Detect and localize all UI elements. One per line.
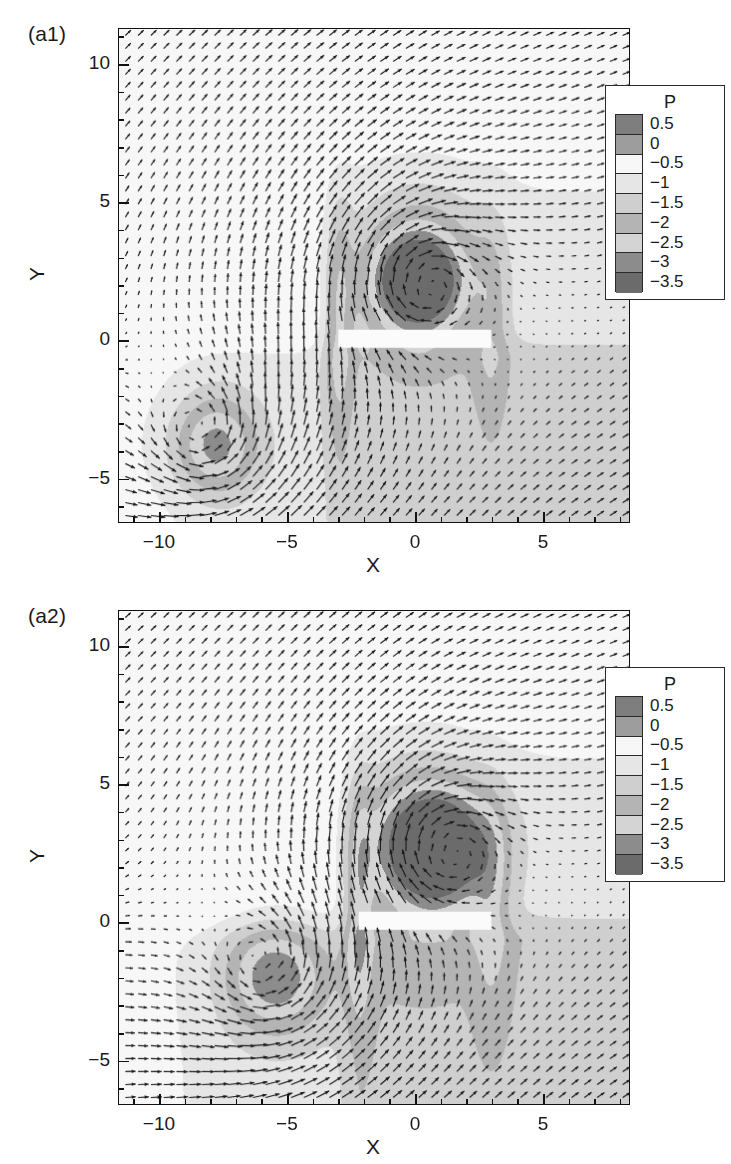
colorbar-band bbox=[616, 273, 642, 293]
y-tick bbox=[118, 1005, 124, 1007]
y-tick-label: 10 bbox=[52, 52, 110, 74]
x-tick bbox=[364, 1099, 366, 1105]
x-tick bbox=[185, 517, 187, 523]
colorbar-band bbox=[616, 214, 642, 234]
x-tick bbox=[133, 517, 135, 523]
y-tick bbox=[118, 1061, 129, 1063]
colorbar-band bbox=[616, 737, 642, 757]
colorbar-tick-label: −3.5 bbox=[650, 854, 684, 874]
x-tick-label: −10 bbox=[129, 531, 189, 553]
y-tick bbox=[118, 92, 124, 94]
vector-pressure-field-a1 bbox=[119, 29, 629, 522]
y-tick bbox=[118, 784, 129, 786]
x-tick-label: −10 bbox=[129, 1113, 189, 1135]
colorbar-band bbox=[616, 253, 642, 273]
x-axis-title-a2: X bbox=[358, 1135, 388, 1159]
y-tick bbox=[118, 895, 124, 897]
y-tick bbox=[118, 674, 124, 676]
y-tick bbox=[118, 175, 124, 177]
y-tick bbox=[118, 119, 124, 121]
y-tick bbox=[118, 757, 124, 759]
x-tick bbox=[620, 517, 622, 523]
x-tick bbox=[569, 1099, 571, 1105]
colorbar-band bbox=[616, 135, 642, 155]
x-tick bbox=[313, 517, 315, 523]
colorbar-tick-label: −1 bbox=[650, 173, 669, 193]
y-tick-label: 10 bbox=[52, 634, 110, 656]
colorbar-labels-a1: 0.50−0.5−1−1.5−2−2.5−3−3.5 bbox=[650, 114, 720, 292]
y-tick bbox=[118, 479, 129, 481]
x-axis-title-a1: X bbox=[358, 553, 388, 577]
x-tick bbox=[133, 1099, 135, 1105]
x-tick-label: 5 bbox=[513, 1113, 573, 1135]
colorbar-tick-label: −1.5 bbox=[650, 775, 684, 795]
colorbar-tick-label: −3 bbox=[650, 252, 669, 272]
x-tick bbox=[389, 517, 391, 523]
x-tick bbox=[620, 1099, 622, 1105]
colorbar-band bbox=[616, 855, 642, 875]
y-tick bbox=[118, 646, 129, 648]
panel-label-a1: (a1) bbox=[28, 22, 66, 46]
y-tick bbox=[118, 950, 124, 952]
y-tick bbox=[118, 1088, 124, 1090]
x-tick bbox=[210, 517, 212, 523]
y-tick bbox=[118, 64, 129, 66]
x-tick bbox=[594, 517, 596, 523]
x-tick bbox=[466, 517, 468, 523]
x-tick bbox=[338, 1099, 340, 1105]
y-tick-label: −5 bbox=[52, 1049, 110, 1071]
y-tick bbox=[118, 147, 124, 149]
y-axis-title-a2: Y bbox=[25, 841, 49, 871]
x-tick bbox=[517, 517, 519, 523]
y-axis-title-a1: Y bbox=[25, 259, 49, 289]
panel-a2: (a2) 1050−5−10−505 Y X P 0.50−0.5−1−1.5−… bbox=[0, 582, 731, 1164]
y-tick bbox=[118, 396, 124, 398]
x-tick bbox=[389, 1099, 391, 1105]
x-tick bbox=[236, 517, 238, 523]
colorbar-tick-label: 0.5 bbox=[650, 114, 674, 134]
colorbar-band bbox=[616, 155, 642, 175]
x-tick bbox=[543, 1094, 545, 1105]
panel-a1: (a1) 1050−5−10−505 Y X P 0.50−0.5−1−1.5−… bbox=[0, 0, 731, 582]
y-tick bbox=[118, 313, 124, 315]
y-tick bbox=[118, 423, 124, 425]
y-tick bbox=[118, 506, 124, 508]
colorbar-a2 bbox=[615, 696, 643, 874]
colorbar-labels-a2: 0.50−0.5−1−1.5−2−2.5−3−3.5 bbox=[650, 696, 720, 874]
y-tick bbox=[118, 202, 129, 204]
y-tick bbox=[118, 729, 124, 731]
colorbar-band bbox=[616, 816, 642, 836]
y-tick bbox=[118, 230, 124, 232]
y-tick bbox=[118, 258, 124, 260]
y-tick bbox=[118, 340, 129, 342]
colorbar-tick-label: −0.5 bbox=[650, 153, 684, 173]
legend-title-a1: P bbox=[664, 92, 676, 113]
colorbar-tick-label: −1.5 bbox=[650, 193, 684, 213]
colorbar-tick-label: −3.5 bbox=[650, 272, 684, 292]
y-tick bbox=[118, 368, 124, 370]
x-tick bbox=[338, 517, 340, 523]
colorbar-tick-label: −2 bbox=[650, 795, 669, 815]
vector-pressure-field-a2 bbox=[119, 611, 629, 1104]
colorbar-band bbox=[616, 115, 642, 135]
x-tick-label: 0 bbox=[385, 531, 445, 553]
x-tick bbox=[441, 1099, 443, 1105]
colorbar-tick-label: 0 bbox=[650, 134, 659, 154]
y-tick-label: 5 bbox=[52, 190, 110, 212]
y-tick bbox=[118, 1033, 124, 1035]
x-tick bbox=[185, 1099, 187, 1105]
y-tick bbox=[118, 867, 124, 869]
x-tick bbox=[492, 1099, 494, 1105]
y-tick bbox=[118, 922, 129, 924]
x-tick bbox=[261, 517, 263, 523]
colorbar-band bbox=[616, 697, 642, 717]
y-tick bbox=[118, 840, 124, 842]
x-tick bbox=[517, 1099, 519, 1105]
x-tick bbox=[261, 1099, 263, 1105]
colorbar-tick-label: −2.5 bbox=[650, 815, 684, 835]
colorbar-a1 bbox=[615, 114, 643, 292]
colorbar-tick-label: −0.5 bbox=[650, 735, 684, 755]
y-tick bbox=[118, 451, 124, 453]
colorbar-tick-label: 0.5 bbox=[650, 696, 674, 716]
x-tick bbox=[415, 1094, 417, 1105]
